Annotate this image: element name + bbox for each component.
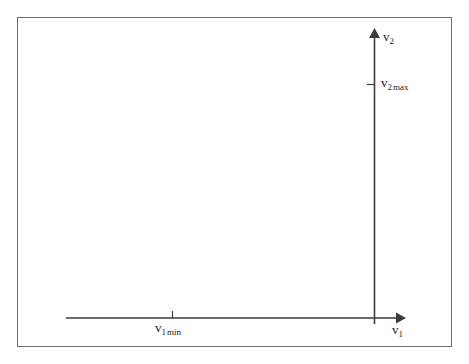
y-tick-label-qualifier: max — [393, 82, 409, 92]
y-tick-label-symbol: v — [381, 75, 388, 90]
x-axis-label-symbol: v — [392, 322, 399, 337]
x-tick-label-qualifier: min — [167, 327, 181, 337]
x-tick-label-symbol: v — [155, 320, 162, 335]
y-axis-label-symbol: v — [383, 29, 390, 44]
x-axis-label: v1 — [392, 323, 403, 336]
axes-canvas — [0, 0, 469, 364]
y-axis-label: v2 — [383, 30, 394, 43]
x-tick-label-subscript: 1 — [162, 327, 167, 337]
y-axis-tick-label: v2max — [381, 76, 409, 89]
y-tick-label-subscript: 2 — [388, 82, 393, 92]
x-axis-label-subscript: 1 — [399, 329, 404, 339]
y-axis-arrowhead — [369, 28, 380, 38]
y-axis-label-subscript: 2 — [390, 36, 395, 46]
x-axis-tick-label: v1min — [155, 321, 181, 334]
